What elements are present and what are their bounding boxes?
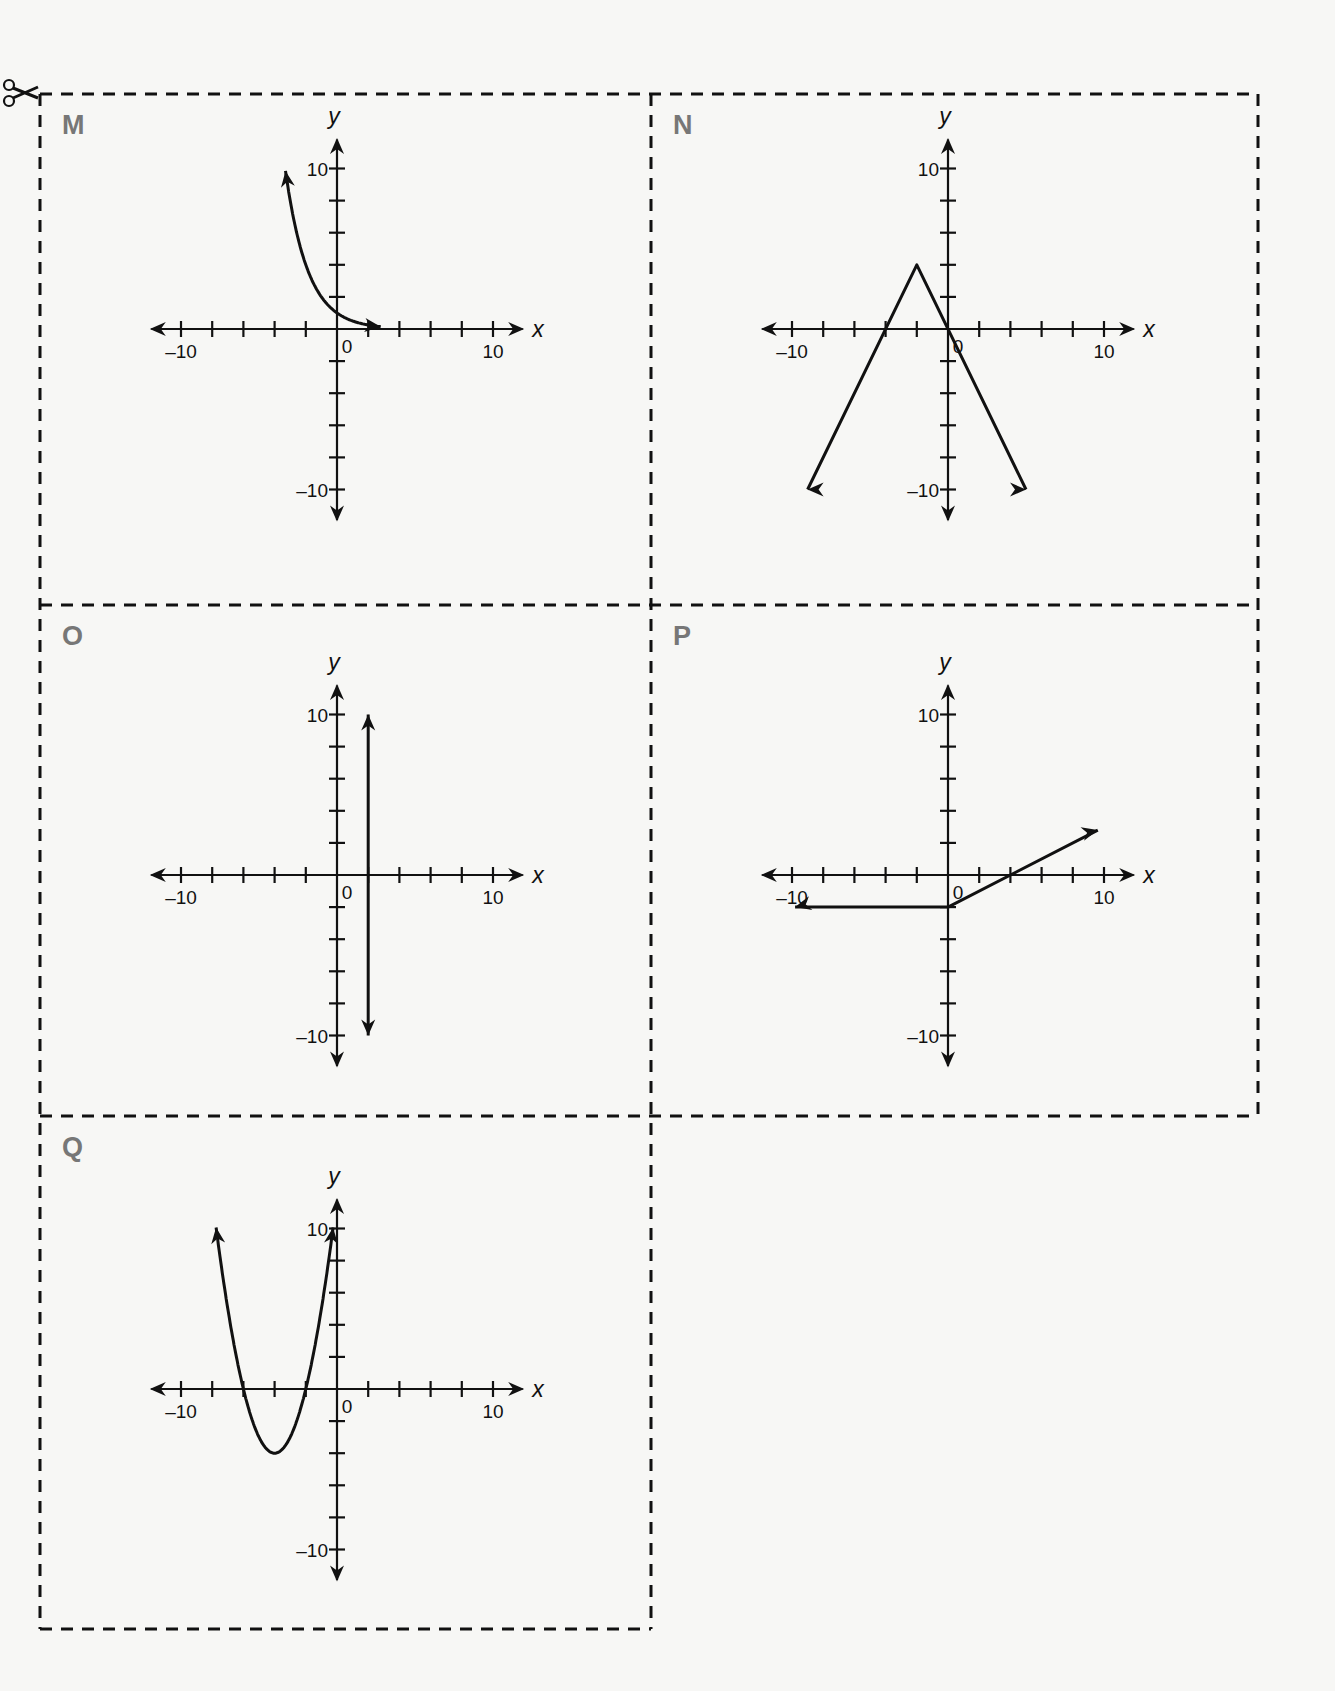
x-tick-label-max: 10 [482,341,503,362]
x-axis-label: x [1142,316,1156,342]
graph-card-p[interactable]: P–1001010–10xy [673,621,1156,1068]
y-tick-label-max: 10 [918,705,939,726]
y-tick-label-max: 10 [918,159,939,180]
origin-label: 0 [342,882,353,903]
card-letter: N [673,110,693,140]
x-axis-label: x [1142,862,1156,888]
card-letter: P [673,621,691,651]
y-tick-label-min: –10 [907,480,939,501]
x-tick-label-max: 10 [482,887,503,908]
y-axis-label: y [326,649,341,675]
x-axis-label: x [531,1376,545,1402]
graph-card-m[interactable]: M–1001010–10xy [62,103,545,521]
origin-label: 0 [342,1396,353,1417]
graph-curve [808,265,1026,490]
axes [761,684,1135,1068]
graph-cards: M–1001010–10xyN–1001010–10xyO–1001010–10… [62,103,1156,1581]
x-axis-label: x [531,316,545,342]
y-tick-label-max: 10 [307,159,328,180]
card-letter: Q [62,1132,83,1162]
origin-label: 0 [342,336,353,357]
x-axis-label: x [531,862,545,888]
y-tick-label-max: 10 [307,1219,328,1240]
x-tick-label-max: 10 [1093,887,1114,908]
x-tick-label-max: 10 [482,1401,503,1422]
x-tick-label-min: –10 [165,341,197,362]
y-tick-label-min: –10 [296,1540,328,1561]
axes [150,138,524,522]
y-tick-label-min: –10 [296,480,328,501]
card-sort-sheet: M–1001010–10xyN–1001010–10xyO–1001010–10… [0,0,1335,1691]
graph-curve [795,830,1098,907]
y-tick-label-max: 10 [307,705,328,726]
y-tick-label-min: –10 [907,1026,939,1047]
x-tick-label-min: –10 [165,1401,197,1422]
graph-card-n[interactable]: N–1001010–10xy [673,103,1156,521]
card-letter: M [62,110,85,140]
x-tick-label-min: –10 [776,341,808,362]
x-tick-label-min: –10 [165,887,197,908]
y-tick-label-min: –10 [296,1026,328,1047]
y-axis-label: y [326,103,341,129]
scissors-icon [4,80,38,106]
y-axis-label: y [937,649,952,675]
y-axis-label: y [937,103,952,129]
x-tick-label-max: 10 [1093,341,1114,362]
axes [150,684,524,1068]
card-letter: O [62,621,83,651]
graph-curve [216,1228,333,1454]
cut-lines [40,94,1258,1629]
y-axis-label: y [326,1163,341,1189]
graph-card-q[interactable]: Q–1001010–10xy [62,1132,545,1582]
axes [150,1198,524,1582]
graph-card-o[interactable]: O–1001010–10xy [62,621,545,1068]
graph-curve [286,171,381,327]
